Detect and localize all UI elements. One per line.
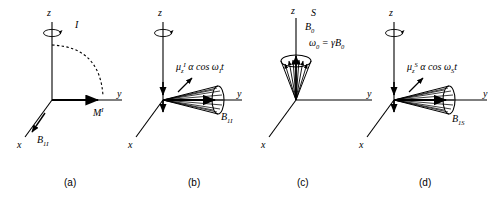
panel-d-caption: (d) <box>419 177 431 188</box>
panel-c-x-axis <box>269 100 296 137</box>
panel-a-tipping-arc <box>52 45 103 96</box>
panel-d-x-label: x <box>358 139 364 150</box>
panel-a-z-label: z <box>46 7 51 18</box>
panel-d-precession-arrowhead <box>401 30 405 35</box>
panel-a-magnetization-label: MI <box>92 106 104 118</box>
figure-container: z I y x MI B1I (a) z y x <box>0 0 490 207</box>
panel-c-z-label: z <box>290 5 295 16</box>
panel-a-b1i-label: B1I <box>37 134 49 147</box>
panel-d: z y x μzS α cos <box>358 7 488 188</box>
panel-b-x-axis <box>136 100 163 137</box>
panel-b-z-label: z <box>157 7 162 18</box>
panel-b-expression-pointer <box>178 78 192 92</box>
panel-b-x-label: x <box>127 139 133 150</box>
panel-c-x-label: x <box>260 139 266 150</box>
panel-d-y-label: y <box>482 88 488 99</box>
panel-d-expression-label: μzS α cos ωSt <box>406 61 457 74</box>
panel-b-precession-arrowhead <box>170 30 174 35</box>
panel-c-spin-label: S <box>311 7 316 18</box>
panel-a-precession-label: I <box>74 19 79 30</box>
panel-d-b1s-label: B1S <box>452 113 465 126</box>
panel-d-expression-pointer <box>409 78 423 92</box>
panel-a-y-label: y <box>116 88 122 99</box>
panel-c-y-label: y <box>366 88 372 99</box>
physics-diagram-svg: z I y x MI B1I (a) z y x <box>0 0 490 207</box>
panel-a-x-axis <box>25 100 52 137</box>
panel-a-b1i-vector <box>32 113 45 132</box>
panel-a: z I y x MI B1I (a) <box>16 7 122 188</box>
panel-c: z S B0 ω0 = γB0 y x (c) <box>260 5 372 188</box>
panel-d-x-axis <box>367 100 394 137</box>
panel-a-caption: (a) <box>64 177 76 188</box>
panel-b-b1i-label: B1I <box>221 111 233 124</box>
panel-a-x-label: x <box>16 139 22 150</box>
panel-b-caption: (b) <box>188 177 200 188</box>
panel-c-caption: (c) <box>297 177 309 188</box>
panel-b-y-label: y <box>236 88 242 99</box>
panel-b-expression-label: μzI α cos ωIt <box>175 61 224 74</box>
panel-b: z y x <box>127 7 242 188</box>
panel-c-cone <box>281 55 311 100</box>
panel-d-z-label: z <box>388 7 393 18</box>
panel-b-cone <box>163 86 224 114</box>
panel-c-b0-label: B0 <box>305 21 315 34</box>
panel-c-larmor-label: ω0 = γB0 <box>309 37 345 50</box>
panel-d-cone <box>394 86 455 114</box>
panel-a-precession-arrowhead <box>59 30 63 35</box>
